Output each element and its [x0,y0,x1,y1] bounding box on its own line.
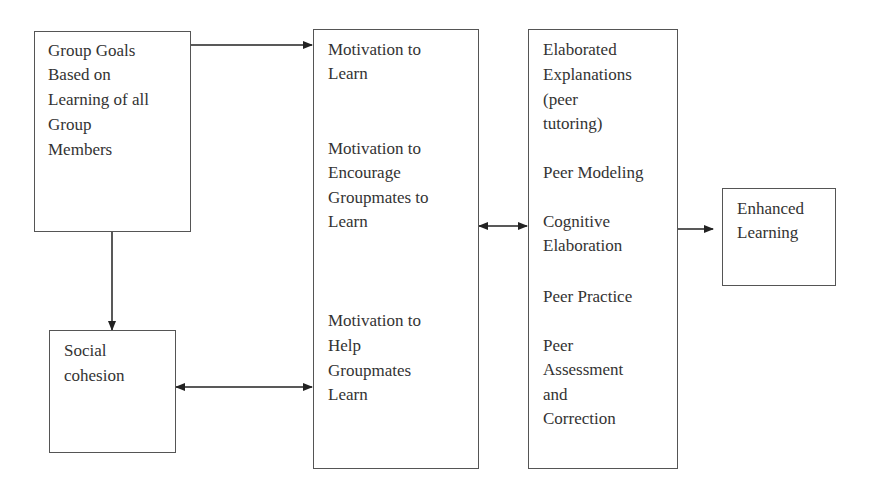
peer-assessment-line: Correction [543,409,616,429]
motivation-help-line: Learn [328,385,368,405]
motivation-encourage-line: Groupmates to [328,188,429,208]
elaborated-explanations-line: Explanations [543,65,632,85]
social-cohesion-line: cohesion [64,366,124,386]
motivation-help-line: Motivation to [328,311,421,331]
enhanced-learning-line: Enhanced [737,199,804,219]
group-goals-line: Group Goals [48,41,135,61]
peer-assessment-line: and [543,385,568,405]
social-cohesion-box: Social cohesion [49,330,176,453]
cognitive-elaboration-line: Cognitive [543,212,610,232]
motivation-help-line: Groupmates [328,361,411,381]
enhanced-learning-line: Learning [737,223,798,243]
processes-box: Elaborated Explanations (peer tutoring) … [528,29,678,469]
peer-assessment-line: Assessment [543,360,623,380]
group-goals-line: Learning of all [48,90,149,110]
motivation-encourage-line: Learn [328,212,368,232]
cognitive-elaboration-line: Elaboration [543,236,622,256]
social-cohesion-line: Social [64,341,107,361]
enhanced-learning-box: Enhanced Learning [722,188,836,286]
motivation-help-line: Help [328,336,361,356]
elaborated-explanations-line: (peer [543,90,578,110]
motivation-encourage-line: Motivation to [328,139,421,159]
group-goals-line: Members [48,140,112,160]
peer-practice-line: Peer Practice [543,287,632,307]
motivation-box: Motivation to Learn Motivation to Encour… [313,29,479,469]
elaborated-explanations-line: Elaborated [543,40,617,60]
motivation-encourage-line: Encourage [328,163,401,183]
group-goals-line: Group [48,115,91,135]
group-goals-box: Group Goals Based on Learning of all Gro… [34,31,191,232]
peer-assessment-line: Peer [543,336,573,356]
elaborated-explanations-line: tutoring) [543,114,603,134]
peer-modeling-line: Peer Modeling [543,163,644,183]
motivation-learn-line: Motivation to [328,40,421,60]
group-goals-line: Based on [48,65,111,85]
motivation-learn-line: Learn [328,64,368,84]
